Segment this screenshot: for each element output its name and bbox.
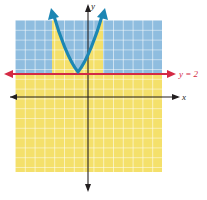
boundary-line-label: y = 2: [178, 69, 199, 79]
x-axis-arrow-right: [172, 94, 180, 100]
x-axis-label: x: [181, 92, 186, 102]
x-axis-arrow-left: [10, 94, 17, 100]
boundary-line-arrow-right: [167, 70, 176, 78]
coordinate-plane-graphic: x y y = 2: [0, 0, 207, 200]
y-axis-label: y: [90, 1, 95, 11]
parabola-arrow-right: [97, 8, 108, 20]
parabola-arrow-left: [48, 8, 59, 20]
boundary-line-arrow-left: [4, 70, 13, 78]
graph-figure: x y y = 2: [0, 0, 207, 200]
y-axis-arrow-down: [85, 184, 91, 192]
